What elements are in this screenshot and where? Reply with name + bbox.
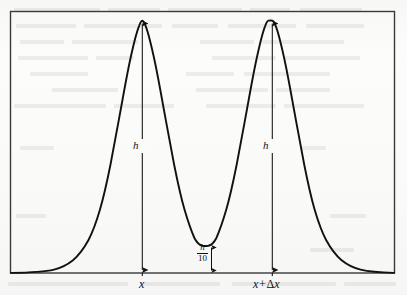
figure-page: h h h 10 x x+Δx xyxy=(0,0,407,295)
tick-label-x: x xyxy=(139,278,144,290)
curve-two-peaks xyxy=(11,20,394,272)
tick-label-x-plus-delta-x: x+Δx xyxy=(253,278,279,290)
plot-frame xyxy=(11,12,395,274)
label-peak-height-left: h xyxy=(133,140,139,151)
tick-label-prefix: x+ xyxy=(253,277,266,291)
valley-fraction-numerator: h xyxy=(197,243,208,252)
label-valley-depth-fraction: h 10 xyxy=(197,243,208,264)
valley-fraction-denominator: 10 xyxy=(197,254,208,263)
tick-label-suffix: x xyxy=(274,277,279,291)
label-peak-height-right: h xyxy=(263,140,269,151)
delta-glyph: Δ xyxy=(266,277,274,291)
